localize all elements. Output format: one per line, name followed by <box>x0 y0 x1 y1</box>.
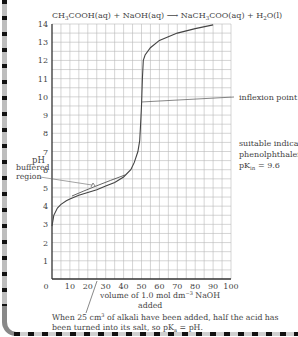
indicator-label-line1: suitable indicator: <box>239 139 298 148</box>
inflexion-label: inflexion point <box>239 93 298 102</box>
y-tick-label: 12 <box>38 56 48 65</box>
x-tick-label: 30 <box>101 282 111 291</box>
y-tick-label: 13 <box>38 38 48 47</box>
x-axis-ticks: 0102030405060708090100 <box>43 282 238 291</box>
x-tick-label: 0 <box>43 282 48 291</box>
buffered-label-line2: region <box>16 172 42 181</box>
chart-grid <box>52 24 231 279</box>
x-tick-label: 20 <box>83 282 93 291</box>
x-tick-label: 60 <box>154 282 164 291</box>
x-tick-label: 10 <box>65 282 75 291</box>
y-tick-label: 1 <box>43 257 48 266</box>
titration-chart: CH3COOH(aq) + NaOH(aq) ⟶ NaCH3COO(aq) + … <box>0 0 298 337</box>
y-tick-label: 3 <box>43 220 48 229</box>
buffered-label-line1: buffered <box>16 163 50 172</box>
indicator-label-line2: phenolphthalein <box>239 150 298 159</box>
y-tick-label: 11 <box>38 75 48 84</box>
indicator-label-line3: pKin = 9.6 <box>239 161 280 171</box>
inflexion-pointer <box>141 97 234 102</box>
x-tick-label: 90 <box>208 282 218 291</box>
y-tick-label: 4 <box>43 202 48 211</box>
y-tick-label: 14 <box>38 20 48 29</box>
x-axis-label-line2: added <box>138 301 162 310</box>
x-tick-label: 50 <box>136 282 146 291</box>
y-tick-label: 5 <box>43 184 48 193</box>
y-tick-label: 9 <box>43 111 48 120</box>
y-tick-label: 8 <box>43 129 48 138</box>
y-axis-ticks: 1234567891011121314 <box>38 20 48 266</box>
x-tick-label: 100 <box>223 282 238 291</box>
x-axis-label-line1: volume of 1.0 mol dm−3 NaOH <box>99 290 220 300</box>
chart-title: CH3COOH(aq) + NaOH(aq) ⟶ NaCH3COO(aq) + … <box>52 11 282 21</box>
y-tick-label: 2 <box>43 239 48 248</box>
x-tick-label: 40 <box>119 282 129 291</box>
note-line2: been turned into its salt, so pKa = pH. <box>52 323 203 333</box>
x-tick-label: 70 <box>172 282 182 291</box>
y-tick-label: 10 <box>38 93 48 102</box>
buffered-region-bracket <box>72 175 125 196</box>
note-line1: When 25 cm3 of alkali have been added, h… <box>52 312 279 322</box>
